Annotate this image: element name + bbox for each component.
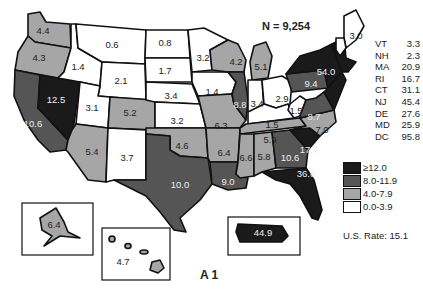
small-state-row: MD25.9: [375, 119, 420, 131]
sample-size-label: N = 9,254: [262, 20, 310, 32]
small-state-row: NH2.3: [375, 50, 420, 62]
label-wv: 1.5: [289, 105, 302, 116]
small-state-row: CT31.1: [375, 84, 420, 96]
label-ms: 6.6: [239, 152, 252, 163]
label-ar: 6.4: [217, 147, 230, 158]
label-al: 5.8: [257, 151, 270, 162]
small-state-row: NJ45.4: [375, 96, 420, 108]
label-ia: 1.4: [205, 86, 218, 97]
state-abbr: MA: [375, 61, 389, 73]
state-abbr: DE: [375, 108, 388, 120]
state-abbr: NJ: [375, 96, 387, 108]
small-state-row: VT3.3: [375, 38, 420, 50]
label-tn: 5.9: [263, 134, 276, 145]
label-pr: 44.9: [254, 227, 273, 238]
hawaii-island-1: [109, 236, 115, 242]
label-co: 5.2: [123, 107, 136, 118]
hawaii-island-3: [140, 250, 148, 254]
label-mt: 0.6: [105, 39, 118, 50]
hawaii-island-2: [125, 244, 131, 249]
state-abbr: DC: [375, 131, 389, 143]
state-abbr: MD: [375, 119, 390, 131]
label-me: 3.0: [349, 30, 362, 41]
label-ok: 4.6: [175, 140, 188, 151]
label-nc: 7.0: [315, 124, 328, 135]
label-hi: 4.7: [116, 256, 129, 267]
state-value: 2.3: [407, 50, 420, 62]
small-state-row: DC95.8: [375, 131, 420, 143]
label-mo: 6.3: [214, 120, 227, 131]
state-value: 25.9: [402, 119, 421, 131]
label-mn: 3.2: [196, 52, 209, 63]
state-value: 3.3: [407, 38, 420, 50]
label-ut: 3.1: [85, 102, 98, 113]
legend-item: 0.0-3.9: [343, 200, 397, 213]
small-state-row: MA20.9: [375, 61, 420, 73]
legend-swatch: [343, 162, 361, 174]
label-ne: 3.4: [164, 90, 177, 101]
label-in: 3.4: [250, 98, 263, 109]
label-tx: 10.0: [171, 179, 190, 190]
figure-label: A 1: [200, 268, 218, 282]
state-abbr: RI: [375, 73, 385, 85]
label-nm: 3.7: [120, 152, 133, 163]
label-ak: 6.4: [47, 219, 60, 230]
label-va: 8.7: [307, 111, 320, 122]
legend-swatch: [343, 188, 361, 200]
label-la: 9.0: [221, 176, 234, 187]
state-abbr: CT: [375, 84, 388, 96]
label-wi: 4.2: [229, 56, 242, 67]
state-value: 20.9: [402, 61, 421, 73]
choropleth-map: 4.4 4.3 10.6 12.5 1.4 0.6 2.1 3.1 5.4 5.…: [0, 0, 423, 291]
label-ks: 3.2: [170, 115, 183, 126]
legend-swatch: [343, 175, 361, 187]
label-oh: 2.9: [275, 93, 288, 104]
label-fl: 36.8: [297, 168, 316, 179]
small-states-table: VT3.3 NH2.3 MA20.9 RI16.7 CT31.1 NJ45.4 …: [375, 38, 420, 142]
label-id: 1.4: [71, 61, 84, 72]
label-ny: 54.0: [317, 66, 336, 77]
label-nv: 12.5: [47, 94, 66, 105]
label-sc: 17.7: [300, 144, 319, 155]
legend-item: 8.0-11.9: [343, 174, 397, 187]
legend-item: ≥12.0: [343, 161, 397, 174]
label-nd: 0.8: [158, 37, 171, 48]
state-value: 16.7: [402, 73, 421, 85]
state-value: 27.6: [402, 108, 421, 120]
state-value: 45.4: [402, 96, 421, 108]
legend-label: 4.0-7.9: [363, 188, 393, 199]
label-il: 8.8: [233, 99, 246, 110]
label-ca: 10.6: [24, 118, 43, 129]
us-rate: U.S. Rate: 15.1: [343, 230, 408, 241]
state-value: 95.8: [402, 131, 421, 143]
label-ga: 10.6: [281, 152, 300, 163]
legend-label: ≥12.0: [363, 162, 387, 173]
label-mi: 5.1: [254, 61, 267, 72]
label-sd: 1.7: [158, 65, 171, 76]
legend-label: 0.0-3.9: [363, 201, 393, 212]
small-state-row: RI16.7: [375, 73, 420, 85]
legend-label: 8.0-11.9: [363, 175, 397, 186]
legend-item: 4.0-7.9: [343, 187, 397, 200]
label-wy: 2.1: [114, 75, 127, 86]
state-value: 31.1: [402, 84, 421, 96]
state-abbr: VT: [375, 38, 387, 50]
label-az: 5.4: [85, 146, 98, 157]
label-wa: 4.4: [36, 25, 49, 36]
label-ky: 1.5: [265, 119, 278, 130]
legend: ≥12.0 8.0-11.9 4.0-7.9 0.0-3.9: [343, 161, 397, 213]
state-abbr: NH: [375, 50, 389, 62]
label-pa: 9.4: [304, 78, 317, 89]
small-state-row: DE27.6: [375, 108, 420, 120]
legend-swatch: [343, 201, 361, 213]
label-or: 4.3: [32, 52, 45, 63]
